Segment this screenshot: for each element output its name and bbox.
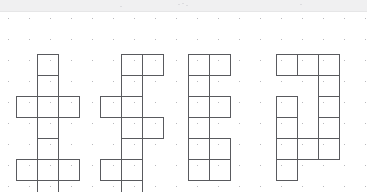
net-square (297, 138, 319, 160)
dot-grid-canvas (0, 12, 367, 192)
net-square (276, 96, 298, 118)
net-square (276, 117, 298, 139)
net-square (276, 138, 298, 160)
header-band (0, 0, 367, 11)
worksheet-canvas (0, 0, 367, 192)
scan-speck (178, 4, 180, 5)
scan-speck (182, 3, 184, 4)
scan-speck (186, 5, 188, 6)
scan-speck (120, 6, 122, 7)
cube-net-figure (0, 12, 367, 192)
net-square (276, 159, 298, 181)
scan-speck (300, 4, 302, 5)
net-square (318, 138, 340, 160)
